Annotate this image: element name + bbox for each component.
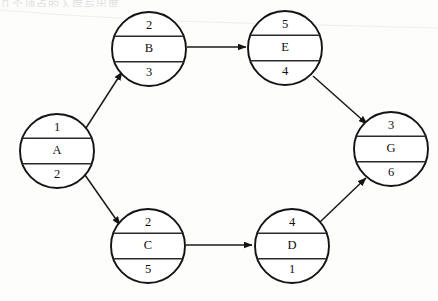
node-top-value: 2 bbox=[146, 18, 152, 32]
node-c[interactable]: 2C5 bbox=[111, 209, 185, 283]
edge-line bbox=[313, 76, 367, 124]
node-g[interactable]: 3G6 bbox=[354, 112, 428, 186]
node-bottom-value: 3 bbox=[146, 65, 152, 79]
node-id-label: D bbox=[287, 238, 296, 252]
edge-line bbox=[320, 178, 366, 222]
edge-e-to-g bbox=[313, 76, 367, 124]
node-id-label: B bbox=[145, 41, 153, 55]
node-id-label: C bbox=[144, 238, 152, 252]
node-id-label: G bbox=[386, 141, 395, 155]
node-top-value: 1 bbox=[54, 120, 60, 134]
nodes-layer: 1A22B32C54D15E43G6 bbox=[20, 11, 428, 283]
node-e[interactable]: 5E4 bbox=[248, 11, 322, 85]
node-d[interactable]: 4D1 bbox=[255, 209, 329, 283]
node-bottom-value: 1 bbox=[289, 262, 295, 276]
node-id-label: E bbox=[281, 40, 289, 54]
node-top-value: 3 bbox=[388, 118, 394, 132]
node-id-label: A bbox=[52, 143, 61, 157]
edge-d-to-g bbox=[320, 178, 366, 222]
node-bottom-value: 2 bbox=[54, 167, 60, 181]
node-top-value: 4 bbox=[289, 215, 296, 229]
node-bottom-value: 4 bbox=[282, 64, 289, 78]
edge-line bbox=[86, 72, 122, 128]
node-b[interactable]: 2B3 bbox=[112, 12, 186, 86]
edge-a-to-c bbox=[85, 175, 120, 225]
diagram-page: 几个顶点的入度与出度 1A22B32C54D15E43G6 bbox=[0, 0, 438, 301]
node-top-value: 2 bbox=[145, 215, 151, 229]
edge-line bbox=[85, 175, 120, 225]
node-top-value: 5 bbox=[282, 17, 288, 31]
edge-a-to-b bbox=[86, 72, 122, 128]
node-bottom-value: 6 bbox=[388, 165, 394, 179]
activity-network-diagram: 1A22B32C54D15E43G6 bbox=[0, 0, 438, 301]
node-a[interactable]: 1A2 bbox=[20, 114, 94, 188]
node-bottom-value: 5 bbox=[145, 262, 151, 276]
